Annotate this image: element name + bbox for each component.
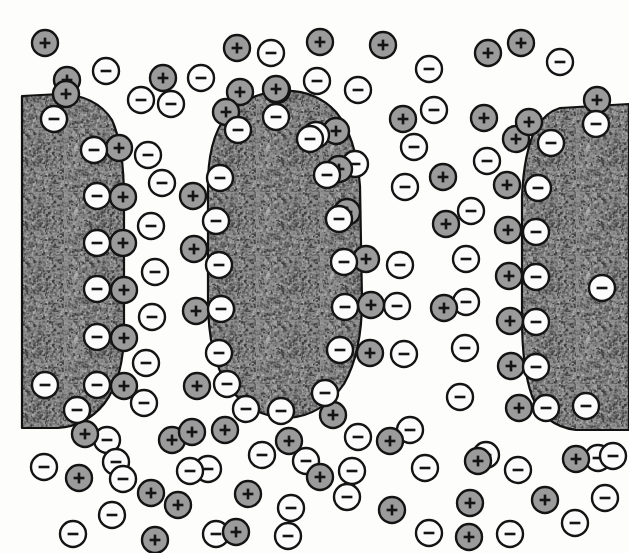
positive-ion: + xyxy=(165,492,191,518)
positive-ion: + xyxy=(471,105,497,131)
negative-ion: − xyxy=(93,58,119,84)
negative-ion: − xyxy=(149,170,175,196)
positive-ion: + xyxy=(377,428,403,454)
negative-ion: − xyxy=(505,457,531,483)
negative-ion: − xyxy=(206,252,232,278)
negative-ion: − xyxy=(547,49,573,75)
positive-ion: + xyxy=(72,421,98,447)
positive-ion: + xyxy=(465,448,491,474)
negative-ion: − xyxy=(523,309,549,335)
positive-ion: + xyxy=(110,184,136,210)
negative-ion: − xyxy=(304,68,330,94)
negative-ion: − xyxy=(533,395,559,421)
negative-ion: − xyxy=(334,484,360,510)
negative-ion: − xyxy=(538,130,564,156)
positive-ion: + xyxy=(456,524,482,550)
negative-ion: − xyxy=(297,126,323,152)
positive-ion: + xyxy=(390,106,416,132)
positive-ion: + xyxy=(212,417,238,443)
positive-ion: + xyxy=(183,298,209,324)
negative-ion: − xyxy=(392,174,418,200)
negative-ion: − xyxy=(332,294,358,320)
negative-ion: − xyxy=(263,104,289,130)
negative-ion: − xyxy=(523,219,549,245)
positive-ion: + xyxy=(223,519,249,545)
negative-ion: − xyxy=(225,117,251,143)
negative-ion: − xyxy=(278,495,304,521)
negative-ion: − xyxy=(345,424,371,450)
negative-ion: − xyxy=(600,443,626,469)
negative-ion: − xyxy=(523,264,549,290)
negative-ion: − xyxy=(589,275,615,301)
negative-ion: − xyxy=(452,335,478,361)
negative-ion: − xyxy=(458,198,484,224)
negative-ion: − xyxy=(177,458,203,484)
negative-ion: − xyxy=(416,520,442,546)
negative-ion: − xyxy=(592,485,618,511)
negative-ion: − xyxy=(312,380,338,406)
positive-ion: + xyxy=(584,87,610,113)
figure-canvas: −−−−−−−−−−−−−−−−−−−−−−−−−−−−−−−−−−−−−−−−… xyxy=(0,0,629,553)
negative-ion: − xyxy=(41,106,67,132)
positive-ion: + xyxy=(276,428,302,454)
positive-ion: + xyxy=(150,65,176,91)
negative-ion: − xyxy=(387,252,413,278)
negative-ion: − xyxy=(60,521,86,547)
negative-ion: − xyxy=(32,372,58,398)
negative-ion: − xyxy=(84,183,110,209)
positive-ion: + xyxy=(111,277,137,303)
positive-ion: + xyxy=(379,497,405,523)
negative-ion: − xyxy=(474,148,500,174)
negative-ion: − xyxy=(384,293,410,319)
positive-ion: + xyxy=(138,480,164,506)
positive-ion: + xyxy=(110,230,136,256)
positive-ion: + xyxy=(357,340,383,366)
positive-ion: + xyxy=(53,81,79,107)
negative-ion: − xyxy=(314,162,340,188)
positive-ion: + xyxy=(433,211,459,237)
positive-ion: + xyxy=(495,217,521,243)
positive-ion: + xyxy=(32,30,58,56)
positive-ion: + xyxy=(111,373,137,399)
negative-ion: − xyxy=(275,523,301,549)
positive-ion: + xyxy=(66,465,92,491)
positive-ion: + xyxy=(457,490,483,516)
negative-ion: − xyxy=(453,246,479,272)
negative-ion: − xyxy=(573,393,599,419)
negative-ion: − xyxy=(110,466,136,492)
positive-ion: + xyxy=(184,373,210,399)
diagram-svg: −−−−−−−−−−−−−−−−−−−−−−−−−−−−−−−−−−−−−−−−… xyxy=(0,0,629,553)
negative-ion: − xyxy=(158,91,184,117)
negative-ion: − xyxy=(562,510,588,536)
positive-ion: + xyxy=(496,263,522,289)
negative-ion: − xyxy=(331,249,357,275)
positive-ion: + xyxy=(370,32,396,58)
positive-ion: + xyxy=(506,395,532,421)
positive-ion: + xyxy=(497,308,523,334)
negative-ion: − xyxy=(523,354,549,380)
negative-ion: − xyxy=(339,458,365,484)
negative-ion: − xyxy=(391,341,417,367)
positive-ion: + xyxy=(508,30,534,56)
diagram-scene: −−−−−−−−−−−−−−−−−−−−−−−−−−−−−−−−−−−−−−−−… xyxy=(0,0,629,553)
negative-ion: − xyxy=(84,324,110,350)
negative-ion: − xyxy=(401,134,427,160)
negative-ion: − xyxy=(326,206,352,232)
negative-ion: − xyxy=(99,502,125,528)
positive-ion: + xyxy=(475,40,501,66)
positive-ion: + xyxy=(224,35,250,61)
positive-ion: + xyxy=(494,172,520,198)
negative-ion: − xyxy=(327,337,353,363)
negative-ion: − xyxy=(138,213,164,239)
negative-ion: − xyxy=(84,230,110,256)
positive-ion: + xyxy=(142,527,168,553)
positive-ion: + xyxy=(431,295,457,321)
positive-ion: + xyxy=(106,135,132,161)
negative-ion: − xyxy=(421,97,447,123)
negative-ion: − xyxy=(207,165,233,191)
negative-ion: − xyxy=(31,454,57,480)
positive-ion: + xyxy=(430,164,456,190)
negative-ion: − xyxy=(412,455,438,481)
positive-ion: + xyxy=(235,481,261,507)
negative-ion: − xyxy=(139,304,165,330)
